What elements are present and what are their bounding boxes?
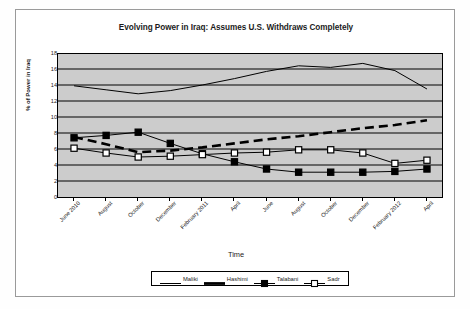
x-axis-title: Time bbox=[16, 250, 456, 259]
x-tick-label: August bbox=[289, 200, 306, 217]
data-point-talabani bbox=[263, 166, 269, 172]
y-axis-title: % of Power in Iraq bbox=[25, 35, 31, 135]
chart-title: Evolving Power in Iraq: Assumes U.S. Wit… bbox=[16, 23, 456, 32]
legend-entry-sadr[interactable]: Sadr bbox=[304, 274, 339, 283]
x-tick-label: April bbox=[229, 200, 241, 212]
y-tick-label: 0 bbox=[41, 194, 57, 200]
legend-swatch-sadr-icon bbox=[304, 274, 325, 283]
data-point-talabani bbox=[231, 159, 237, 165]
data-point-talabani bbox=[424, 166, 430, 172]
data-point-sadr bbox=[392, 160, 398, 166]
data-point-talabani bbox=[167, 140, 173, 146]
plot-svg bbox=[58, 53, 443, 197]
data-point-sadr bbox=[360, 150, 366, 156]
x-tick-label: December bbox=[347, 200, 370, 223]
data-point-sadr bbox=[135, 154, 141, 160]
series-line-hashimi bbox=[74, 120, 427, 152]
y-tick-label: 14 bbox=[41, 82, 57, 88]
legend-label: Talabani bbox=[277, 276, 299, 282]
y-tick-label: 6 bbox=[41, 146, 57, 152]
data-point-talabani bbox=[135, 129, 141, 135]
chart-legend: MalikiHashimiTalabaniSadr bbox=[151, 271, 349, 286]
legend-swatch-talabani-icon bbox=[254, 274, 275, 283]
series-line-sadr bbox=[74, 148, 427, 163]
legend-label: Hashimi bbox=[227, 276, 248, 282]
data-point-sadr bbox=[199, 152, 205, 158]
chart-figure-frame: Evolving Power in Iraq: Assumes U.S. Wit… bbox=[15, 9, 455, 297]
data-point-sadr bbox=[424, 157, 430, 163]
data-point-sadr bbox=[103, 150, 109, 156]
y-tick-label: 4 bbox=[41, 162, 57, 168]
y-tick-label: 12 bbox=[41, 98, 57, 104]
legend-entry-hashimi[interactable]: Hashimi bbox=[204, 274, 248, 283]
x-tick-label: October bbox=[319, 200, 338, 219]
legend-swatch-maliki-icon bbox=[160, 274, 181, 283]
legend-swatch-hashimi-icon bbox=[204, 274, 225, 283]
series-line-maliki bbox=[74, 63, 427, 93]
y-tick-label: 18 bbox=[41, 50, 57, 56]
x-tick-label: June bbox=[261, 200, 274, 213]
data-point-talabani bbox=[71, 135, 77, 141]
legend-label: Sadr bbox=[327, 276, 339, 282]
y-tick-label: 10 bbox=[41, 114, 57, 120]
y-tick-label: 8 bbox=[41, 130, 57, 136]
data-point-sadr bbox=[231, 150, 237, 156]
y-tick-label: 2 bbox=[41, 178, 57, 184]
data-point-sadr bbox=[71, 145, 77, 151]
data-point-talabani bbox=[296, 169, 302, 175]
data-point-sadr bbox=[263, 149, 269, 155]
data-point-sadr bbox=[296, 147, 302, 153]
data-point-talabani bbox=[328, 169, 334, 175]
data-point-talabani bbox=[103, 132, 109, 138]
x-tick-label: February 2011 bbox=[180, 200, 210, 230]
x-tick-label: December bbox=[155, 200, 178, 223]
x-axis-tick-labels: June 2010AugustOctoberDecemberFebruary 2… bbox=[57, 200, 457, 248]
legend-label: Maliki bbox=[183, 276, 198, 282]
x-tick-label: June 2010 bbox=[58, 200, 81, 223]
data-point-talabani bbox=[360, 169, 366, 175]
data-point-talabani bbox=[392, 168, 398, 174]
legend-entry-maliki[interactable]: Maliki bbox=[160, 274, 198, 283]
data-point-sadr bbox=[328, 147, 334, 153]
chart-page: Evolving Power in Iraq: Assumes U.S. Wit… bbox=[0, 0, 470, 309]
y-tick-label: 16 bbox=[41, 66, 57, 72]
y-axis-ticks: 024681012141618 bbox=[36, 53, 57, 197]
x-tick-label: August bbox=[97, 200, 114, 217]
x-tick-label: February 2012 bbox=[372, 200, 402, 230]
x-tick-label: October bbox=[127, 200, 146, 219]
data-point-sadr bbox=[167, 153, 173, 159]
x-tick-label: April bbox=[422, 200, 434, 212]
legend-entry-talabani[interactable]: Talabani bbox=[254, 274, 299, 283]
plot-area bbox=[57, 53, 443, 198]
